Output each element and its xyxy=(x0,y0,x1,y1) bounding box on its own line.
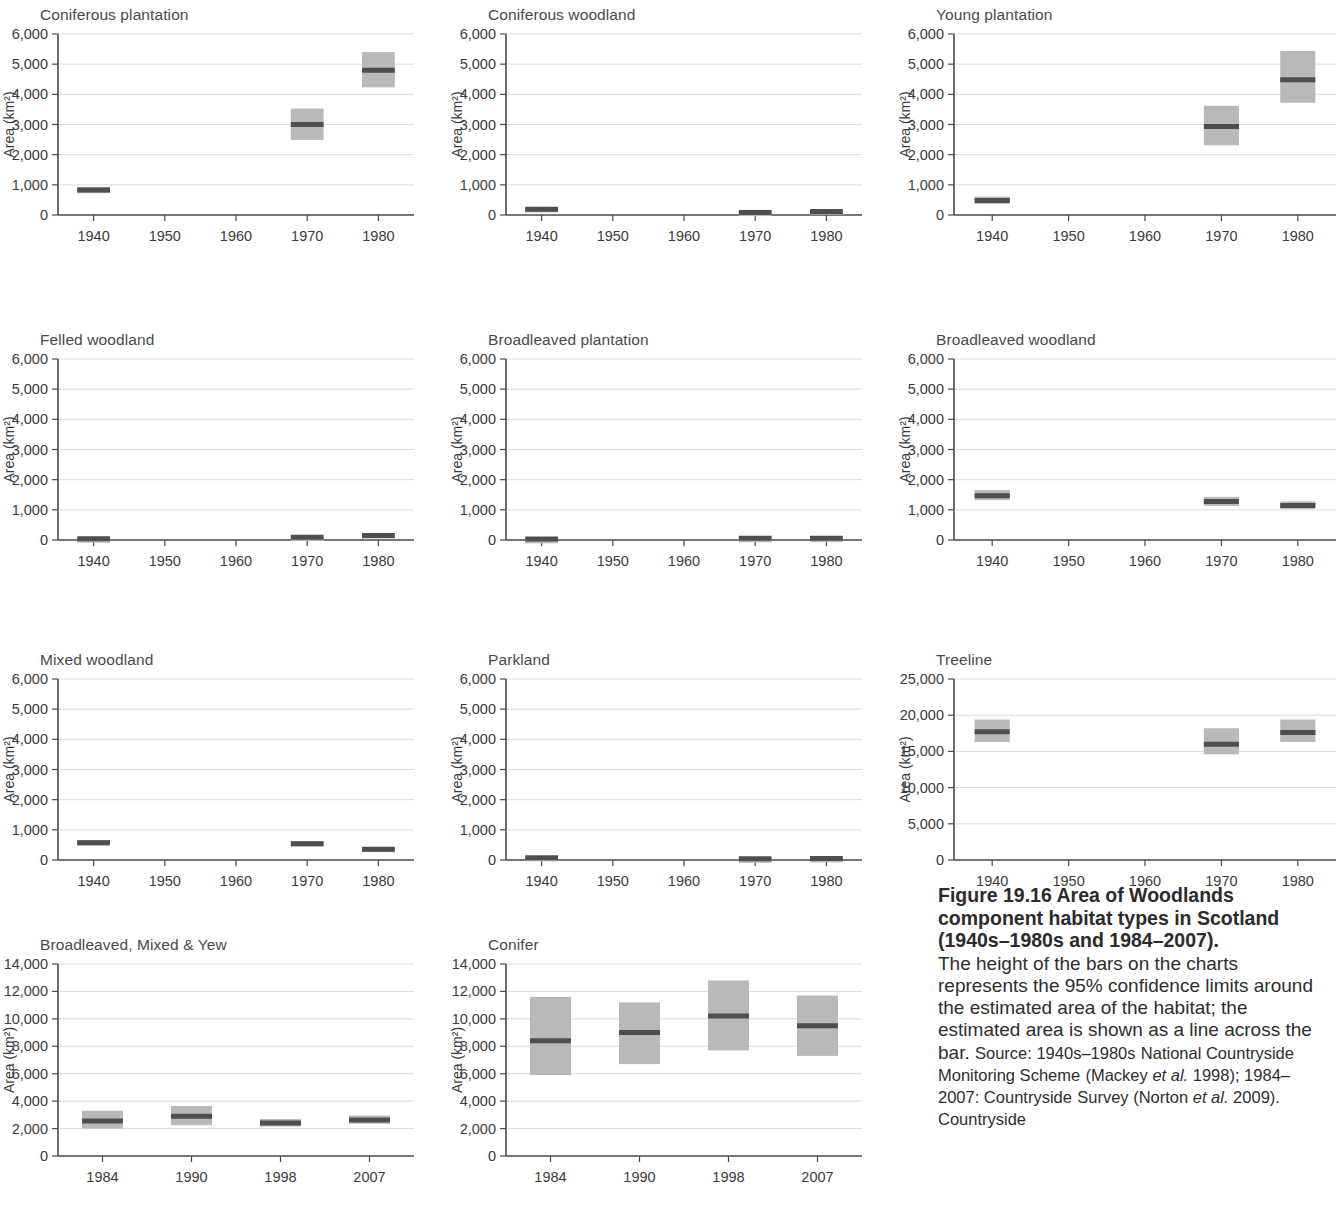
caption-heading: Figure 19.16 Area of Woodlands component… xyxy=(938,884,1318,952)
ci-bar-1940 xyxy=(77,187,110,193)
x-tick-label: 1940 xyxy=(976,228,1008,244)
y-axis-title: Area (km²) xyxy=(1,1027,17,1093)
y-axis-title: Area (km²) xyxy=(897,736,913,802)
y-tick-label: 1,000 xyxy=(460,822,496,838)
chart-svg-broadleaved-mixed-yew: 02,0004,0006,0008,00010,00012,00014,0001… xyxy=(0,956,420,1202)
y-tick-label: 6,000 xyxy=(908,26,944,42)
ci-bar-1940 xyxy=(975,197,1010,204)
x-tick-label: 1990 xyxy=(175,1169,207,1185)
chart-title-mixed-woodland: Mixed woodland xyxy=(0,651,420,669)
x-tick-label: 1970 xyxy=(291,228,323,244)
ci-bar-1980 xyxy=(1280,720,1315,742)
x-tick-label: 1960 xyxy=(220,553,252,569)
x-tick-label: 2007 xyxy=(353,1169,385,1185)
y-tick-label: 0 xyxy=(936,207,944,223)
x-tick-label: 1998 xyxy=(712,1169,744,1185)
y-tick-label: 3,000 xyxy=(12,442,48,458)
y-axis-title: Area (km²) xyxy=(897,91,913,157)
chart-title-coniferous-woodland: Coniferous woodland xyxy=(448,6,868,24)
x-tick-label: 1970 xyxy=(1205,228,1237,244)
ci-bar-1980 xyxy=(810,537,843,542)
ci-bar-1980 xyxy=(362,52,395,87)
ci-bar-1970 xyxy=(1204,728,1239,754)
y-tick-label: 5,000 xyxy=(460,701,496,717)
ci-bar-1984 xyxy=(530,997,571,1075)
caption-body: The height of the bars on the charts rep… xyxy=(938,953,1318,1131)
x-tick-label: 1998 xyxy=(264,1169,296,1185)
y-tick-label: 6,000 xyxy=(460,671,496,687)
y-axis-title: Area (km²) xyxy=(449,736,465,802)
y-tick-label: 1,000 xyxy=(12,822,48,838)
x-tick-label: 1960 xyxy=(668,228,700,244)
ci-bar-1940 xyxy=(77,538,110,543)
x-tick-label: 1940 xyxy=(525,553,557,569)
ci-bar-1998 xyxy=(708,980,749,1050)
y-tick-label: 5,000 xyxy=(12,701,48,717)
x-tick-label: 1980 xyxy=(362,553,394,569)
y-tick-label: 5,000 xyxy=(12,381,48,397)
ci-bar-1970 xyxy=(291,841,324,846)
y-tick-label: 6,000 xyxy=(908,351,944,367)
y-tick-label: 6,000 xyxy=(12,1066,48,1082)
x-tick-label: 1970 xyxy=(739,553,771,569)
x-tick-label: 1980 xyxy=(362,873,394,889)
chart-title-broadleaved-woodland: Broadleaved woodland xyxy=(896,331,1340,349)
y-tick-label: 1,000 xyxy=(12,177,48,193)
y-tick-label: 8,000 xyxy=(12,1038,48,1054)
chart-title-coniferous-plantation: Coniferous plantation xyxy=(0,6,420,24)
x-tick-label: 1990 xyxy=(623,1169,655,1185)
chart-panel-coniferous-plantation: Coniferous plantation01,0002,0003,0004,0… xyxy=(0,6,420,261)
chart-svg-broadleaved-woodland: 01,0002,0003,0004,0005,0006,000194019501… xyxy=(896,351,1340,586)
y-tick-label: 6,000 xyxy=(12,26,48,42)
x-tick-label: 2007 xyxy=(801,1169,833,1185)
y-tick-label: 2,000 xyxy=(12,792,48,808)
y-tick-label: 2,000 xyxy=(12,472,48,488)
y-tick-label: 3,000 xyxy=(12,762,48,778)
y-tick-label: 0 xyxy=(40,852,48,868)
chart-panel-broadleaved-mixed-yew: Broadleaved, Mixed & Yew02,0004,0006,000… xyxy=(0,936,420,1202)
x-tick-label: 1950 xyxy=(149,228,181,244)
caption-citation-norton-pre: Survey (Norton xyxy=(1077,1088,1193,1106)
chart-svg-parkland: 01,0002,0003,0004,0005,0006,000194019501… xyxy=(448,671,868,906)
chart-svg-broadleaved-plantation: 01,0002,0003,0004,0005,0006,000194019501… xyxy=(448,351,868,586)
ci-bar-1998 xyxy=(260,1119,301,1127)
y-tick-label: 12,000 xyxy=(452,983,496,999)
y-tick-label: 0 xyxy=(936,852,944,868)
ci-bar-1940 xyxy=(77,840,110,845)
y-tick-label: 4,000 xyxy=(12,1093,48,1109)
x-tick-label: 1970 xyxy=(739,873,771,889)
x-tick-label: 1960 xyxy=(1129,228,1161,244)
chart-svg-coniferous-woodland: 01,0002,0003,0004,0005,0006,000194019501… xyxy=(448,26,868,261)
ci-bar-1984 xyxy=(82,1111,123,1129)
caption-citation-mackey-pre: (Mackey xyxy=(1085,1066,1152,1084)
y-tick-label: 20,000 xyxy=(900,707,944,723)
y-tick-label: 0 xyxy=(40,207,48,223)
chart-svg-conifer: 02,0004,0006,0008,00010,00012,00014,0001… xyxy=(448,956,868,1202)
ci-bar-1980 xyxy=(810,210,843,215)
y-tick-label: 5,000 xyxy=(908,381,944,397)
ci-bar-1990 xyxy=(619,1002,660,1064)
y-tick-label: 6,000 xyxy=(12,671,48,687)
chart-svg-treeline: 05,00010,00015,00020,00025,0001940195019… xyxy=(896,671,1340,906)
y-axis-title: Area (km²) xyxy=(449,91,465,157)
chart-panel-conifer: Conifer02,0004,0006,0008,00010,00012,000… xyxy=(448,936,868,1202)
chart-title-broadleaved-plantation: Broadleaved plantation xyxy=(448,331,868,349)
x-tick-label: 1960 xyxy=(668,553,700,569)
ci-bar-1940 xyxy=(525,538,558,543)
y-axis-title: Area (km²) xyxy=(449,416,465,482)
ci-bar-1980 xyxy=(810,857,843,862)
y-tick-label: 10,000 xyxy=(452,1011,496,1027)
y-tick-label: 25,000 xyxy=(900,671,944,687)
chart-panel-mixed-woodland: Mixed woodland01,0002,0003,0004,0005,000… xyxy=(0,651,420,906)
caption-line-2: represents the 95% confidence limits xyxy=(938,975,1249,996)
y-tick-label: 5,000 xyxy=(460,56,496,72)
y-tick-label: 6,000 xyxy=(460,1066,496,1082)
chart-panel-broadleaved-plantation: Broadleaved plantation01,0002,0003,0004,… xyxy=(448,331,868,586)
chart-panel-coniferous-woodland: Coniferous woodland01,0002,0003,0004,000… xyxy=(448,6,868,261)
ci-bar-1940 xyxy=(975,720,1010,742)
chart-panel-treeline: Treeline05,00010,00015,00020,00025,00019… xyxy=(896,651,1340,906)
ci-bar-1970 xyxy=(291,109,324,140)
y-tick-label: 4,000 xyxy=(12,731,48,747)
y-tick-label: 4,000 xyxy=(12,86,48,102)
y-tick-label: 0 xyxy=(488,1148,496,1164)
